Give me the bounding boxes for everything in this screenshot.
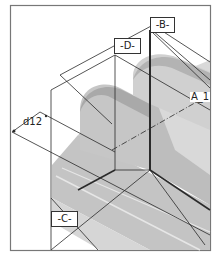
dimension-arrow-icon xyxy=(45,115,47,117)
dimension-arrow-icon xyxy=(13,130,16,133)
axis-label-a1[interactable]: A_1 xyxy=(190,92,210,102)
datum-label-c[interactable]: -C- xyxy=(51,211,78,227)
cad-viewport[interactable] xyxy=(0,0,215,256)
datum-label-b[interactable]: -B- xyxy=(150,17,175,33)
datum-label-d[interactable]: -D- xyxy=(114,38,141,54)
dimension-label-d12[interactable]: d12 xyxy=(23,117,42,127)
